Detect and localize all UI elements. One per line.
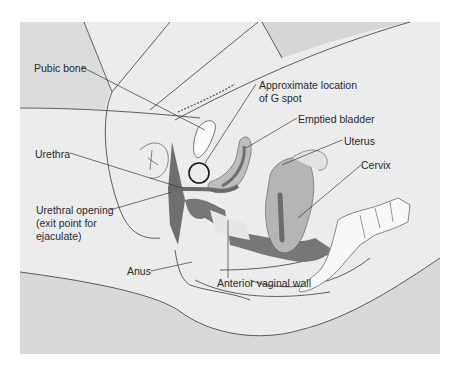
label-anterior-vaginal-wall: Anterior vaginal wall xyxy=(217,277,311,289)
label-urethral-opening-line3: ejaculate) xyxy=(36,230,82,242)
label-uterus: Uterus xyxy=(344,135,375,147)
uterine-cavity xyxy=(280,195,282,240)
label-g-spot-line2: of G spot xyxy=(259,92,302,104)
anatomy-diagram xyxy=(0,0,457,369)
label-emptied-bladder: Emptied bladder xyxy=(298,113,374,125)
label-cervix: Cervix xyxy=(361,159,391,171)
label-g-spot-line1: Approximate location xyxy=(259,79,357,91)
label-anus: Anus xyxy=(127,265,151,277)
label-pubic-bone: Pubic bone xyxy=(34,62,87,74)
label-urethral-opening-line1: Urethral opening xyxy=(36,204,114,216)
label-urethral-opening-line2: (exit point for xyxy=(36,217,97,229)
label-urethra: Urethra xyxy=(35,148,70,160)
